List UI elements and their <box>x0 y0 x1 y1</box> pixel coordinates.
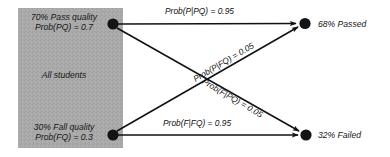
node-passed[interactable] <box>299 18 310 29</box>
source-pass-quality-line1: 70% Pass quality <box>20 12 108 22</box>
node-fail-quality[interactable] <box>107 129 118 140</box>
source-pass-quality-line2: Prob(PQ) = 0.7 <box>20 22 108 32</box>
population-box-label: All students <box>20 70 108 80</box>
probability-diagram: 70% Pass quality Prob(PQ) = 0.7 All stud… <box>0 0 390 157</box>
node-failed[interactable] <box>300 129 311 140</box>
source-label-fail-quality: 30% Fall quality Prob(FQ) = 0.3 <box>20 122 108 142</box>
node-pass-quality[interactable] <box>107 18 118 29</box>
target-label-failed: 32% Failed <box>318 130 361 140</box>
edge-label-fq-to-f: Prob(F|FQ) = 0.95 <box>163 119 231 129</box>
source-fail-quality-line1: 30% Fall quality <box>20 122 108 132</box>
source-label-pass-quality: 70% Pass quality Prob(PQ) = 0.7 <box>20 12 108 32</box>
source-fail-quality-line2: Prob(FQ) = 0.3 <box>20 132 108 142</box>
edge-label-pq-to-p: Prob(P|PQ) = 0.95 <box>165 7 234 17</box>
edge-pq-to-p <box>118 24 296 25</box>
target-label-passed: 68% Passed <box>318 19 366 29</box>
